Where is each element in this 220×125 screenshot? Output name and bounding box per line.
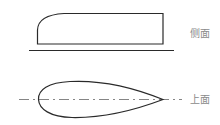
diagram-canvas xyxy=(0,0,220,125)
side-view-label: 侧面 xyxy=(190,28,210,40)
top-view-label: 上面 xyxy=(190,94,210,106)
side-view-shape xyxy=(38,14,164,45)
